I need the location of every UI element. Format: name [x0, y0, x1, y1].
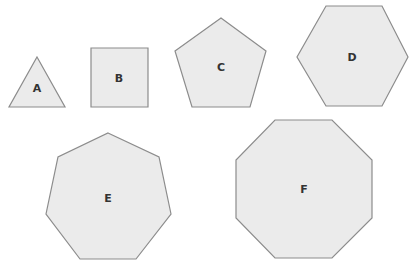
shape-label-f: F [300, 183, 308, 196]
shape-label-a: A [33, 82, 42, 95]
shape-e-heptagon: E [46, 133, 171, 259]
shape-label-d: D [347, 51, 356, 64]
shape-f-octagon: F [236, 120, 372, 258]
shape-a-triangle: A [9, 57, 65, 107]
shape-label-e: E [104, 192, 112, 205]
shape-b-square: B [91, 48, 148, 107]
polygons-diagram: A B C D E F [0, 0, 417, 270]
shape-label-b: B [115, 72, 123, 85]
shape-label-c: C [217, 61, 225, 74]
shape-c-pentagon: C [175, 18, 266, 107]
shape-d-hexagon: D [297, 6, 408, 106]
